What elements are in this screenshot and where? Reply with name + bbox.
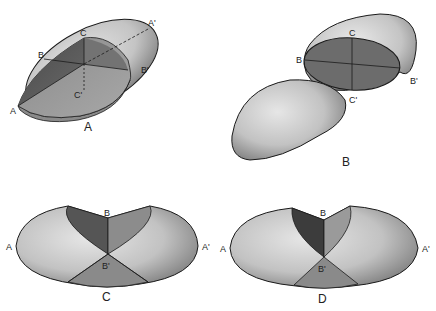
ellipsoid-b-lower-half	[232, 80, 346, 160]
label-b: B	[38, 50, 44, 60]
panel-b: B B' C C' B	[232, 14, 418, 169]
label-a-prime: A'	[148, 18, 156, 28]
label-b-prime: B'	[318, 264, 326, 274]
label-a: A	[220, 244, 226, 254]
label-a: A	[6, 242, 12, 252]
label-b-prime: B'	[410, 76, 418, 86]
label-b: B	[296, 55, 302, 65]
label-b: B	[320, 208, 326, 218]
label-c: C	[349, 28, 356, 38]
label-c: C	[80, 28, 87, 38]
caption-d: D	[318, 292, 327, 306]
label-a: A	[10, 106, 16, 116]
label-a-prime: A'	[422, 244, 430, 254]
panel-c: B B' A A' C	[6, 206, 210, 304]
label-b-prime: B'	[102, 261, 110, 271]
caption-a: A	[84, 120, 92, 134]
caption-b: B	[342, 155, 350, 169]
label-b: B	[104, 208, 110, 218]
caption-c: C	[102, 290, 111, 304]
panel-d: B B' A A' D	[220, 206, 430, 306]
panel-a: A A' B B' C C' A	[10, 0, 173, 134]
label-c-prime: C'	[74, 90, 82, 100]
label-c-prime: C'	[349, 95, 357, 105]
label-b-prime: B'	[141, 65, 149, 75]
label-a-prime: A'	[202, 242, 210, 252]
ellipsoid-sections-diagram: A A' B B' C C' A B B' C C' B B B' A A' C	[0, 0, 436, 311]
